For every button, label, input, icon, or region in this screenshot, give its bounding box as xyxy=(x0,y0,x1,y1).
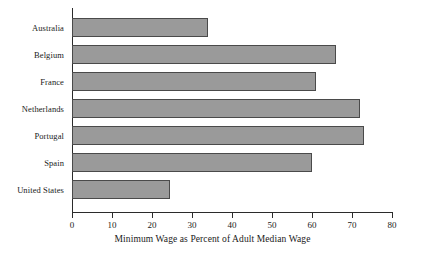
bar-chart: AustraliaBelgiumFranceNetherlandsPortuga… xyxy=(0,0,425,254)
tick-label-50: 50 xyxy=(268,219,277,231)
category-label-france: France xyxy=(0,77,64,87)
tick-mark-0 xyxy=(72,213,73,218)
value-axis-ticks xyxy=(72,213,393,218)
bar-france xyxy=(72,72,316,91)
category-label-netherlands: Netherlands xyxy=(0,104,64,114)
tick-mark-80 xyxy=(392,213,393,218)
tick-label-20: 20 xyxy=(148,219,157,231)
bar-australia xyxy=(72,18,208,37)
category-axis-labels: AustraliaBelgiumFranceNetherlandsPortuga… xyxy=(0,0,68,212)
bar-united-states xyxy=(72,180,170,199)
bar-netherlands xyxy=(72,99,360,118)
tick-mark-30 xyxy=(192,213,193,218)
x-axis-title: Minimum Wage as Percent of Adult Median … xyxy=(0,233,425,245)
tick-label-70: 70 xyxy=(348,219,357,231)
tick-mark-70 xyxy=(352,213,353,218)
tick-mark-50 xyxy=(272,213,273,218)
tick-label-10: 10 xyxy=(108,219,117,231)
tick-mark-60 xyxy=(312,213,313,218)
category-label-portugal: Portugal xyxy=(0,131,64,141)
tick-label-0: 0 xyxy=(70,219,75,231)
tick-label-30: 30 xyxy=(188,219,197,231)
category-label-united-states: United States xyxy=(0,185,64,195)
category-label-australia: Australia xyxy=(0,23,64,33)
value-axis-tick-labels: 01020304050607080 xyxy=(72,219,393,232)
tick-mark-40 xyxy=(232,213,233,218)
plot-area xyxy=(72,8,392,212)
tick-mark-20 xyxy=(152,213,153,218)
category-label-spain: Spain xyxy=(0,158,64,168)
bar-portugal xyxy=(72,126,364,145)
tick-label-40: 40 xyxy=(228,219,237,231)
tick-label-80: 80 xyxy=(388,219,397,231)
bar-belgium xyxy=(72,45,336,64)
tick-mark-10 xyxy=(112,213,113,218)
tick-label-60: 60 xyxy=(308,219,317,231)
bar-spain xyxy=(72,153,312,172)
category-label-belgium: Belgium xyxy=(0,50,64,60)
